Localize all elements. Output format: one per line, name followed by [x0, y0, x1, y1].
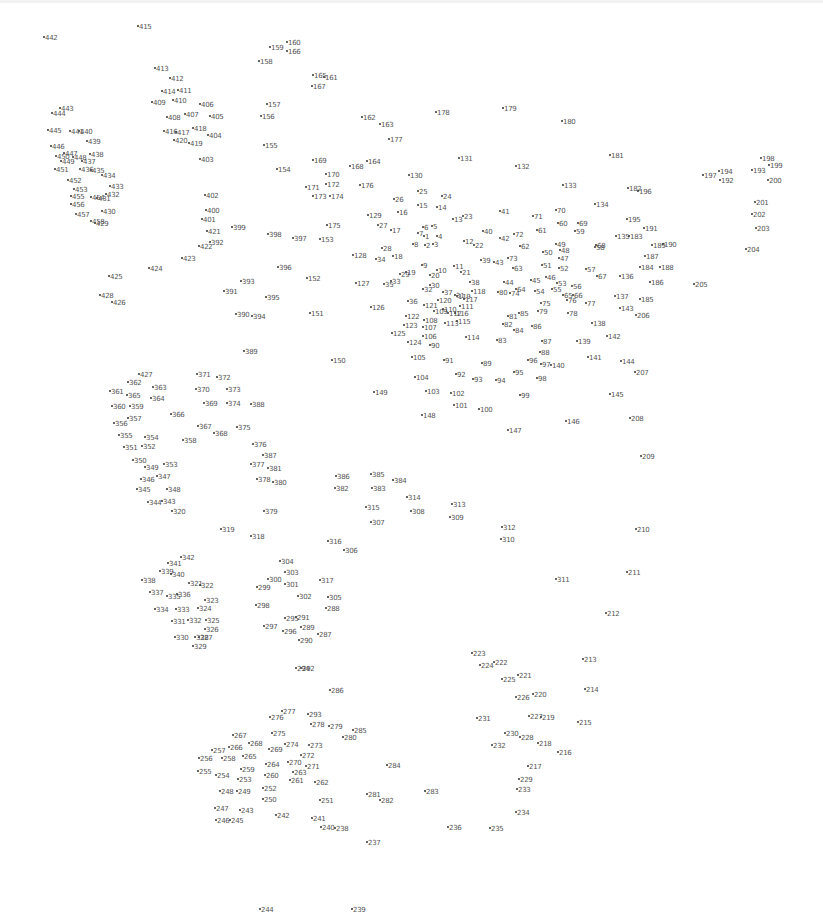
dot-label: 148 — [423, 412, 435, 420]
dot-label: 366 — [172, 411, 184, 419]
dot-label: 228 — [521, 734, 533, 742]
dot-label: 216 — [559, 749, 571, 757]
dot-label: 72 — [515, 231, 523, 239]
dot-label: 310 — [502, 536, 514, 544]
dot-label: 178 — [437, 109, 449, 117]
dot-label: 350 — [134, 457, 146, 465]
dot-label: 242 — [277, 812, 289, 820]
dot-label: 133 — [564, 182, 576, 190]
dot-label: 224 — [481, 662, 493, 670]
dot-label: 241 — [313, 815, 325, 823]
dot-label: 143 — [621, 305, 633, 313]
dot-label: 127 — [357, 280, 369, 288]
dot-label: 136 — [621, 273, 633, 281]
dot-label: 457 — [77, 211, 89, 219]
dot-label: 17 — [392, 227, 400, 235]
dot-label: 233 — [518, 786, 530, 794]
dot-label: 259 — [242, 766, 254, 774]
dot-label: 279 — [330, 723, 342, 731]
dot-label: 93 — [474, 376, 482, 384]
dot-label: 343 — [163, 498, 175, 506]
dot-label: 226 — [517, 694, 529, 702]
dot-label: 383 — [373, 485, 385, 493]
dot-label: 401 — [203, 216, 215, 224]
dot-label: 120 — [439, 297, 451, 305]
dot-label: 368 — [215, 430, 227, 438]
dot-label: 434 — [103, 172, 115, 180]
dot-label: 165 — [314, 72, 326, 80]
dot-label: 160 — [288, 39, 300, 47]
dot-label: 192 — [721, 177, 733, 185]
dot-label: 18 — [394, 253, 402, 261]
dot-label: 309 — [451, 514, 463, 522]
dot-label: 105 — [413, 354, 425, 362]
dot-label: 155 — [265, 142, 277, 150]
dot-label: 130 — [410, 172, 422, 180]
dot-label: 265 — [244, 753, 256, 761]
dot-label: 106 — [424, 333, 436, 341]
dot-label: 331 — [173, 618, 185, 626]
dot-label: 406 — [201, 101, 213, 109]
dot-label: 103 — [427, 388, 439, 396]
dot-label: 295 — [286, 615, 298, 623]
dot-label: 448 — [74, 154, 86, 162]
dot-label: 102 — [452, 390, 464, 398]
dot-label: 70 — [557, 207, 565, 215]
dot-label: 83 — [498, 337, 506, 345]
dot-label: 435 — [92, 167, 104, 175]
dot-label: 332 — [189, 617, 201, 625]
dot-label: 125 — [393, 330, 405, 338]
dot-label: 59 — [576, 228, 584, 236]
dot-label: 324 — [199, 605, 211, 613]
dot-label: 42 — [501, 235, 509, 243]
dot-label: 373 — [228, 386, 240, 394]
dot-label: 223 — [473, 650, 485, 658]
dot-label: 151 — [311, 310, 323, 318]
dot-label: 118 — [473, 288, 485, 296]
dot-label: 432 — [107, 191, 119, 199]
dot-label: 77 — [587, 300, 595, 308]
dot-label: 215 — [579, 719, 591, 727]
dot-label: 424 — [150, 265, 162, 273]
dot-label: 193 — [753, 167, 765, 175]
dot-label: 358 — [184, 437, 196, 445]
dot-label: 204 — [747, 246, 759, 254]
dot-label: 369 — [205, 400, 217, 408]
dot-label: 174 — [331, 193, 343, 201]
dot-label: 137 — [616, 293, 628, 301]
dot-label: 37 — [444, 289, 452, 297]
dot-label: 115 — [458, 318, 470, 326]
dot-label: 116 — [456, 310, 468, 318]
dot-label: 306 — [345, 547, 357, 555]
dot-label: 302 — [299, 593, 311, 601]
dot-label: 456 — [72, 201, 84, 209]
dot-label: 213 — [584, 656, 596, 664]
dot-label: 157 — [268, 101, 280, 109]
dot-label: 246 — [217, 817, 229, 825]
dot-label: 80 — [499, 289, 507, 297]
dot-label: 314 — [408, 494, 420, 502]
dot-label: 187 — [646, 253, 658, 261]
dot-label: 71 — [534, 213, 542, 221]
dot-label: 290 — [300, 637, 312, 645]
dot-label: 209 — [642, 453, 654, 461]
dot-label: 267 — [234, 732, 246, 740]
dot-label: 326 — [206, 626, 218, 634]
dot-label: 287 — [319, 631, 331, 639]
dot-label: 69 — [579, 220, 587, 228]
dot-label: 337 — [151, 589, 163, 597]
dot-label: 129 — [369, 212, 381, 220]
dot-label: 380 — [274, 479, 286, 487]
dot-label: 316 — [329, 538, 341, 546]
dot-label: 14 — [438, 204, 446, 212]
dot-label: 436 — [81, 166, 93, 174]
dot-label: 22 — [475, 242, 483, 250]
dot-label: 253 — [239, 776, 251, 784]
dot-label: 230 — [506, 730, 518, 738]
dot-label: 263 — [294, 769, 306, 777]
dot-label: 439 — [88, 138, 100, 146]
dot-label: 408 — [168, 114, 180, 122]
dot-label: 286 — [331, 687, 343, 695]
dot-label: 452 — [69, 177, 81, 185]
dot-label: 60 — [559, 220, 567, 228]
